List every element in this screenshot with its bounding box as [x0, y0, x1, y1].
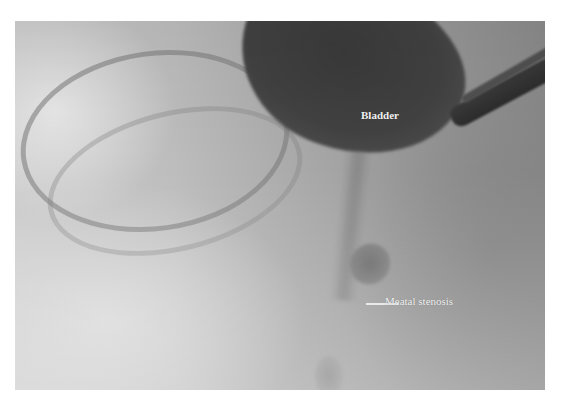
xray-image: Bladder Meatal stenosis [15, 21, 545, 390]
exposure-gradient [15, 21, 545, 390]
bladder-label: Bladder [361, 109, 399, 121]
meatal-stenosis-label: Meatal stenosis [385, 295, 453, 307]
